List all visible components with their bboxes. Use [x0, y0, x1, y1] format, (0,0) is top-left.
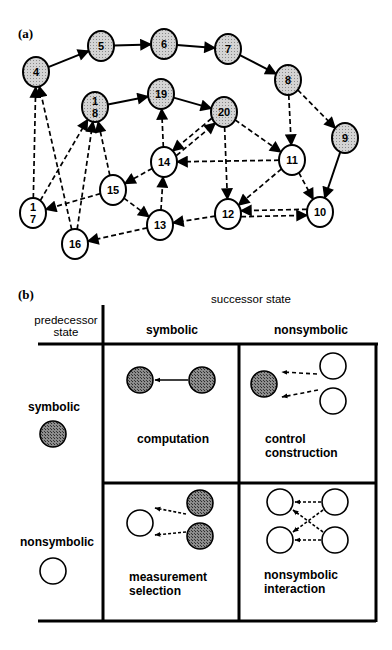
state-node-8: 8 [275, 65, 301, 95]
transition-edge [177, 160, 279, 162]
state-node-11: 11 [279, 145, 305, 175]
transition-edge [173, 216, 215, 223]
state-node-13: 13 [147, 210, 173, 240]
svg-text:20: 20 [218, 106, 230, 118]
row-axis-title-line1: predecessor [34, 314, 98, 326]
svg-text:5: 5 [98, 40, 104, 52]
transition-edge [177, 45, 215, 48]
cell-control-construction-line1: control [265, 432, 338, 446]
state-node-7: 7 [215, 34, 241, 64]
cell-computation-label: computation [137, 432, 209, 446]
state-node-12: 12 [215, 199, 241, 229]
svg-text:16: 16 [69, 238, 81, 250]
svg-text:7: 7 [225, 43, 231, 55]
svg-text:9: 9 [342, 132, 348, 144]
transition-edge [162, 109, 164, 147]
state-node-6: 6 [151, 29, 177, 59]
transition-edge [88, 228, 147, 241]
svg-text:15: 15 [107, 184, 119, 196]
transition-edge [299, 173, 313, 200]
transition-edge [235, 120, 281, 152]
transition-edge [77, 122, 93, 229]
svg-text:13: 13 [154, 219, 166, 231]
transition-edge [325, 152, 341, 198]
panel-b-label: (b) [18, 287, 34, 303]
transition-edge [238, 169, 281, 205]
control-construction-glyph [251, 353, 346, 414]
transition-edge [173, 118, 212, 150]
panel-a-label: (a) [18, 26, 33, 42]
svg-text:19: 19 [155, 88, 167, 100]
svg-text:6: 6 [161, 38, 167, 50]
row-header-symbolic: symbolic [28, 400, 80, 414]
transition-edge [298, 90, 335, 128]
state-node-14: 14 [151, 147, 177, 177]
svg-text:7: 7 [30, 213, 36, 225]
cell-measurement-selection-line2: selection [129, 584, 207, 598]
nonsymbolic-interaction-glyph [267, 489, 348, 553]
measurement-selection-glyph [127, 490, 213, 549]
transition-edge [33, 87, 35, 198]
transition-edge [289, 95, 292, 145]
state-transition-graph: 4567891819201415111716131210 [20, 29, 358, 259]
column-axis-title: successor state [211, 293, 291, 305]
state-node-15: 15 [100, 175, 126, 205]
svg-text:8: 8 [285, 74, 291, 86]
column-header-nonsymbolic: nonsymbolic [274, 323, 348, 337]
row-axis-title: predecessor state [34, 314, 98, 338]
cell-control-construction-line2: construction [265, 446, 338, 460]
state-node-17: 17 [20, 198, 46, 228]
svg-text:8: 8 [92, 107, 98, 119]
transition-edge [240, 55, 276, 74]
cell-nonsymbolic-interaction-line2: interaction [264, 582, 338, 596]
cell-measurement-selection-line1: measurement [129, 570, 207, 584]
svg-text:12: 12 [222, 208, 234, 220]
transition-edge [98, 122, 110, 176]
state-node-5: 5 [88, 31, 114, 61]
state-node-9: 9 [332, 123, 358, 153]
transition-edge [48, 51, 88, 67]
cell-nonsymbolic-interaction-label: nonsymbolic interaction [264, 568, 338, 596]
svg-text:1: 1 [92, 95, 98, 107]
transition-edge [176, 123, 215, 155]
cell-measurement-selection-label: measurement selection [129, 570, 207, 598]
transition-edge [40, 119, 87, 200]
state-node-18: 18 [82, 92, 108, 122]
svg-text:11: 11 [286, 154, 298, 166]
computation-glyph [127, 367, 215, 393]
transition-edge [46, 194, 101, 210]
transition-edge [161, 177, 163, 210]
row-header-nonsymbolic: nonsymbolic [20, 535, 94, 549]
symbolic-state-icon [40, 421, 66, 447]
cell-control-construction-label: control construction [265, 432, 338, 460]
transition-edge [124, 198, 149, 217]
state-node-10: 10 [307, 197, 333, 227]
column-header-symbolic: symbolic [146, 323, 198, 337]
state-node-19: 19 [148, 79, 174, 109]
svg-text:10: 10 [314, 206, 326, 218]
transition-edge [241, 215, 307, 216]
transition-edge [114, 44, 151, 45]
row-axis-title-line2: state [34, 326, 98, 338]
transition-edge [125, 168, 153, 183]
svg-text:1: 1 [30, 201, 36, 213]
nonsymbolic-state-icon [40, 558, 66, 584]
transition-edge [225, 127, 228, 199]
state-node-16: 16 [62, 229, 88, 259]
transition-edge [241, 209, 307, 210]
transition-edge [108, 97, 148, 105]
cell-nonsymbolic-interaction-line1: nonsymbolic [264, 568, 338, 582]
state-node-20: 20 [211, 97, 237, 127]
svg-text:14: 14 [158, 156, 171, 168]
state-node-4: 4 [23, 57, 49, 87]
transition-edge [174, 98, 212, 109]
svg-text:4: 4 [33, 66, 40, 78]
